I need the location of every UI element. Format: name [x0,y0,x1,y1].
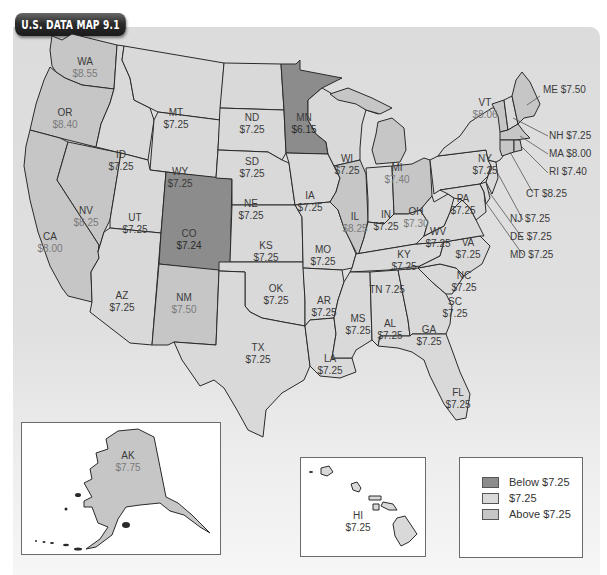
label-sd: SD$7.25 [239,156,264,180]
label-il: IL$8.25 [342,211,367,235]
legend-swatch-below [482,477,499,488]
label-ny: NY$7.25 [472,153,497,177]
legend-item-above: Above $7.25 [482,508,571,520]
label-ga: GA$7.25 [416,324,441,348]
label-mn: MN$6.15 [291,112,316,136]
label-hi: HI$7.25 [345,510,370,534]
label-me: ME $7.50 [543,84,586,96]
label-md: MD $7.25 [510,249,553,261]
alaska-shape [22,423,220,554]
label-va: VA$7.25 [455,237,480,261]
island-maui[interactable] [381,502,397,510]
island-lanai[interactable] [373,504,379,510]
state-ak[interactable] [84,429,210,549]
state-mi-lower[interactable] [372,118,406,164]
state-me[interactable] [512,72,540,124]
label-mi: MI$7.40 [384,162,409,186]
label-ok: OK$7.25 [263,283,288,307]
legend-item-below: Below $7.25 [482,476,570,488]
label-ut: UT$7.25 [122,212,147,236]
label-ma: MA $8.00 [549,148,591,160]
legend-item-equal: $7.25 [482,492,537,504]
label-ak: AK$7.75 [115,450,140,474]
label-tx: TX$7.25 [245,342,270,366]
hawaii-shape [301,458,425,556]
legend: Below $7.25 $7.25 Above $7.25 [459,457,583,558]
label-nc: NC$7.25 [451,270,476,294]
alaska-inset: AK$7.75 [21,422,221,555]
state-az[interactable] [90,228,161,345]
label-ri: RI $7.40 [549,166,587,178]
label-wi: WI$7.25 [334,153,359,177]
label-sc: SC$7.25 [442,296,467,320]
label-tn: TN 7.25 [369,284,405,296]
state-ri[interactable] [514,140,522,152]
state-ct[interactable] [500,140,514,156]
label-al: AL$7.25 [377,318,402,342]
label-ca: CA$8.00 [37,231,62,255]
label-ar: AR$7.25 [311,295,336,319]
island-kauai[interactable] [321,466,333,476]
label-ks: KS$7.25 [253,240,278,264]
label-in: IN$7.25 [373,209,398,233]
label-ms: MS$7.25 [345,313,370,337]
state-nd[interactable] [220,63,284,110]
label-ne: NE$7.25 [238,198,263,222]
legend-swatch-equal [482,493,499,504]
label-de: DE $7.25 [510,231,552,243]
label-co: CO$7.24 [176,228,201,252]
label-ct: CT $8.25 [526,188,567,200]
label-id: ID$7.25 [108,149,133,173]
label-nj: NJ $7.25 [510,213,550,225]
label-nm: NM$7.50 [171,292,196,316]
island-molokai[interactable] [369,496,381,500]
label-wa: WA$8.55 [72,56,97,80]
hawaii-inset: HI$7.25 [300,457,426,557]
label-nh: NH $7.25 [549,130,591,142]
label-mo: MO$7.25 [310,244,335,268]
island-niihau [309,471,313,473]
label-nv: NV$8.25 [73,205,98,229]
label-pa: PA$7.25 [450,193,475,217]
island-hawaii[interactable] [393,516,417,546]
label-la: LA$7.25 [317,353,342,377]
island-oahu[interactable] [351,482,361,492]
label-nd: ND$7.25 [239,112,264,136]
label-ky: KY$7.25 [391,249,416,273]
label-ia: IA$7.25 [297,190,322,214]
label-wv: WV$7.25 [425,226,450,250]
label-mt: MT$7.25 [163,107,188,131]
label-wy: WY$7.25 [167,166,192,190]
label-fl: FL$7.25 [445,387,470,411]
legend-swatch-above [482,509,499,520]
label-or: OR$8.40 [52,107,77,131]
label-az: AZ$7.25 [109,290,134,314]
label-vt: VT$8.06 [472,97,497,121]
